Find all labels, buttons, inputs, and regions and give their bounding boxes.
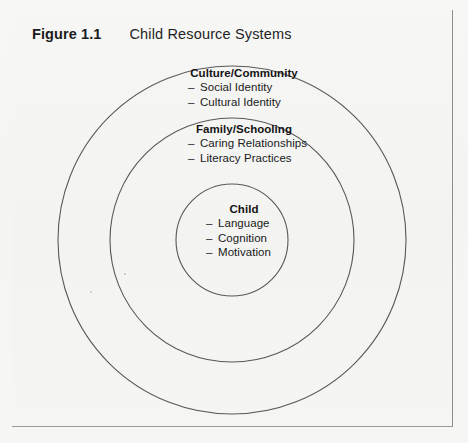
inner-ring-item: – Cognition xyxy=(206,231,316,246)
inner-ring-label: Child – Language – Cognition – Motivatio… xyxy=(172,202,316,260)
inner-ring-item-label: Language xyxy=(218,216,270,231)
inner-ring-items: – Language – Cognition – Motivation xyxy=(172,216,316,260)
bullet-dash: – xyxy=(188,136,195,151)
inner-ring-heading: Child xyxy=(172,202,316,216)
figure-panel: Figure 1.1 Child Resource Systems Cultur… xyxy=(12,10,453,427)
middle-ring-label: Family/Schooling – Caring Relationships … xyxy=(160,122,328,165)
bullet-dash: – xyxy=(188,95,195,110)
outer-ring-items: – Social Identity – Cultural Identity xyxy=(160,80,328,109)
outer-ring-label: Culture/Community – Social Identity – Cu… xyxy=(160,66,328,109)
middle-ring-item-label: Literacy Practices xyxy=(200,151,292,166)
middle-ring-item-label: Caring Relationships xyxy=(200,136,307,151)
bullet-dash: – xyxy=(188,151,195,166)
outer-ring-item-label: Cultural Identity xyxy=(200,95,281,110)
figure-page: the nature of the language and literacy … xyxy=(0,0,468,443)
middle-ring-heading: Family/Schooling xyxy=(160,122,328,136)
bullet-dash: – xyxy=(206,216,213,231)
bullet-dash: – xyxy=(206,245,213,260)
bullet-dash: – xyxy=(188,80,195,95)
inner-ring-item: – Motivation xyxy=(206,245,316,260)
scan-speck xyxy=(124,273,126,275)
outer-ring-heading: Culture/Community xyxy=(160,66,328,80)
inner-ring-item: – Language xyxy=(206,216,316,231)
inner-ring-item-label: Cognition xyxy=(218,231,267,246)
inner-ring-item-label: Motivation xyxy=(218,245,271,260)
middle-ring-items: – Caring Relationships – Literacy Practi… xyxy=(160,136,328,165)
middle-ring-item: – Literacy Practices xyxy=(188,151,328,166)
outer-ring-item: – Social Identity xyxy=(188,80,328,95)
outer-ring-item-label: Social Identity xyxy=(200,80,272,95)
outer-ring-item: – Cultural Identity xyxy=(188,95,328,110)
bullet-dash: – xyxy=(206,231,213,246)
middle-ring-item: – Caring Relationships xyxy=(188,136,328,151)
scan-speck xyxy=(90,291,92,293)
